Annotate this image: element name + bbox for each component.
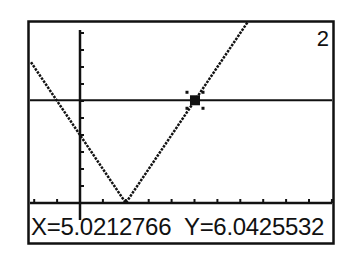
screen-frame bbox=[29, 22, 334, 244]
absolute-value-graph bbox=[31, 22, 248, 203]
graph-number-indicator: 2 bbox=[317, 26, 329, 52]
x-coordinate: X=5.0212766 bbox=[31, 213, 171, 241]
trace-readout: X=5.0212766 Y=6.0425532 bbox=[31, 213, 324, 241]
y-coordinate: Y=6.0425532 bbox=[184, 213, 324, 241]
